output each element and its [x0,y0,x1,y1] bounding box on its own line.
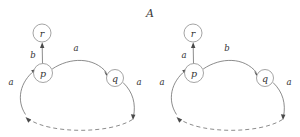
right-node-p: p [185,64,204,83]
left-edge-q-to-bottomright: a [123,77,142,120]
right-edge-p-to-q-label: b [224,43,229,53]
right-edge-q-to-bottomright-line [273,83,284,117]
left-node-q: q [107,70,124,87]
right-edge-p-to-q: b [203,43,258,76]
left-edge-q-to-bottomright-line [123,83,134,117]
figure-canvas: A b a a [0,0,300,137]
left-edge-bottomleft-to-p-line [20,71,34,115]
left-edge-bottomleft-to-p-label: a [8,77,13,87]
left-node-r: r [33,24,51,42]
right-node-q-label: q [262,73,268,84]
left-edge-dashed-return [26,117,133,130]
left-edge-bottomleft-to-p: a [8,69,36,115]
right-node-p-label: p [191,68,197,79]
figure-title: A [145,7,154,20]
left-automaton: b a a a [8,24,141,130]
left-edge-dashed-return-line [29,119,133,130]
left-node-q-label: q [112,73,118,84]
right-edge-p-to-q-line [203,60,256,72]
right-edge-p-to-r-arrowhead [191,42,195,48]
left-node-p-label: p [40,68,46,79]
right-edge-dashed-return [177,117,283,130]
left-edge-p-to-r: b [30,42,44,63]
left-edge-dashed-return-arrowhead [26,117,32,123]
left-edge-p-to-r-arrowhead [40,42,44,48]
right-edge-q-to-bottomright-label: a [286,77,291,87]
right-node-r: r [184,24,202,42]
right-edge-p-to-r: a [181,42,195,63]
right-edge-q-to-bottomright: a [273,77,292,120]
left-edge-q-to-bottomright-arrowhead [131,114,136,120]
right-automaton: a b a a [159,24,291,130]
right-edge-bottomleft-to-p: a [159,69,187,115]
left-edge-p-to-q: a [52,43,108,76]
automata-figure: A b a a [0,0,300,137]
right-edge-p-to-r-label: a [181,50,186,60]
right-edge-q-to-bottomright-arrowhead [281,114,286,120]
left-node-p: p [34,64,53,83]
right-node-q: q [257,70,274,87]
right-edge-bottomleft-to-p-label: a [159,77,164,87]
right-edge-bottomleft-to-p-line [171,71,185,115]
left-edge-p-to-r-label: b [30,50,35,60]
left-edge-q-to-bottomright-label: a [136,77,141,87]
left-edge-p-to-q-line [52,60,106,72]
right-edge-dashed-return-arrowhead [177,117,183,123]
right-edge-dashed-return-line [180,119,283,130]
left-edge-p-to-q-label: a [73,43,78,53]
